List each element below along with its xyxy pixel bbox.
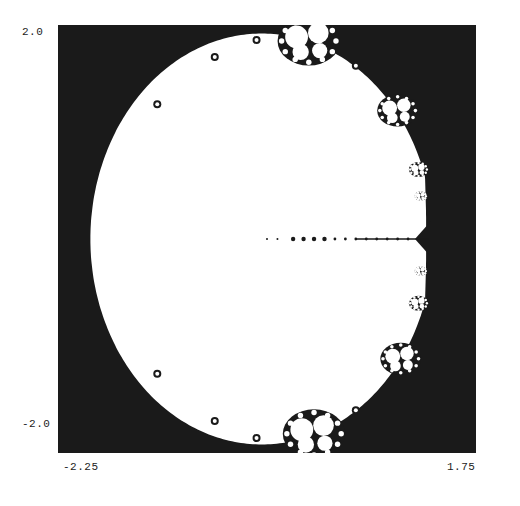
y-axis-max-label: 2.0 (22, 26, 43, 38)
bulb-bud (292, 57, 297, 62)
bulb-bud (405, 121, 409, 125)
lower-right-bulb (380, 343, 421, 375)
bulb-bud (288, 442, 293, 447)
bulb-bud (335, 442, 340, 447)
x-axis-max-label: 1.75 (447, 461, 475, 473)
spike-dot (276, 238, 278, 240)
upper-right-bulb (377, 95, 418, 127)
bulb-bud (408, 345, 412, 349)
spike-dot (291, 237, 295, 241)
spike-dot (322, 237, 326, 241)
edge-bud (352, 62, 360, 70)
bulb-bud (338, 431, 343, 436)
bulb-bud (414, 109, 418, 113)
bulb-bud (333, 38, 338, 43)
y-axis-min-label: -2.0 (22, 418, 50, 430)
spike-dot (312, 237, 316, 241)
bulb-bud (419, 191, 421, 193)
bulb-bud (417, 175, 419, 177)
x-axis-min-label: -2.25 (63, 461, 99, 473)
bulb-bud (405, 97, 409, 101)
bulb-bud (426, 168, 428, 170)
edge-bud-core (213, 419, 217, 423)
bulb-bud (417, 162, 419, 164)
bulb-bud (425, 299, 427, 301)
bulb-bud (413, 308, 415, 310)
bulb-bud (422, 163, 424, 165)
bulb-bud (422, 273, 424, 275)
bulb-bud (288, 420, 293, 425)
bulb-lobe (418, 164, 424, 170)
edge-bud (253, 434, 261, 442)
bulb-bud (330, 28, 335, 33)
bulb-bud (419, 274, 421, 276)
bulb-bud (330, 49, 335, 54)
bulb-bud (279, 38, 284, 43)
bulb-bud (380, 116, 384, 120)
bulb-bud (413, 163, 415, 165)
edge-bud (153, 370, 161, 378)
bulb-bud (399, 371, 403, 375)
edge-bud-core (255, 436, 259, 440)
bulb-bud (409, 168, 411, 170)
bulb-bud (325, 413, 330, 418)
bulb-bud (396, 123, 400, 127)
spike-dot (266, 238, 268, 240)
bulb-bud (410, 305, 412, 307)
bulb-bud (380, 102, 384, 106)
bulb-bud (414, 195, 416, 197)
bulb-bud (422, 266, 424, 268)
bulb-bud (410, 165, 412, 167)
bulb-bud (410, 172, 412, 174)
fractal-plot (58, 25, 476, 453)
bulb-bud (413, 174, 415, 176)
spike-dot (301, 237, 305, 241)
bulb-bud (419, 266, 421, 268)
bulb-bud (384, 350, 388, 354)
bulb-bud (417, 266, 419, 268)
edge-bud-core (255, 38, 259, 42)
bulb-bud (425, 172, 427, 174)
bulb-bud (422, 174, 424, 176)
edge-bud (253, 36, 261, 44)
bulb-lobe (400, 112, 410, 122)
bulb-bud (311, 410, 316, 415)
bulb-bud (417, 273, 419, 275)
bulb-bud (414, 270, 416, 272)
bulb-bud (378, 109, 382, 113)
bulb-bud (387, 97, 391, 101)
bulb-lobe (420, 304, 425, 309)
bulb-lobe (313, 415, 334, 436)
bulb-bud (283, 49, 288, 54)
bulb-bud (422, 191, 424, 193)
edge-bud-core (354, 408, 358, 412)
bulb-bud (425, 270, 427, 272)
edge-bud-core (354, 64, 358, 68)
bulb-bud (424, 193, 426, 195)
bulb-bud (284, 431, 289, 436)
spike-dot (344, 238, 347, 241)
bulb-bud (408, 369, 412, 373)
bulb-bud (381, 357, 385, 361)
bulb-bud (283, 28, 288, 33)
bulb-bud (413, 296, 415, 298)
bulb-bud (425, 195, 427, 197)
bulb-bud (414, 350, 418, 354)
edge-bud-core (155, 372, 159, 376)
bulb-bud (306, 60, 311, 65)
bulb-bud (387, 121, 391, 125)
bulb-lobe (397, 99, 411, 113)
edge-bud (352, 406, 360, 414)
bulb-bud (417, 295, 419, 297)
bulb-bud (415, 193, 417, 195)
bulb-bud (422, 296, 424, 298)
bulb-bud (415, 197, 417, 199)
bulb-bud (422, 199, 424, 201)
bulb-bud (396, 95, 400, 99)
bulb-bud (415, 268, 417, 270)
bulb-bud (409, 302, 411, 304)
bulb-lobe (403, 360, 413, 370)
bulb-bud (335, 420, 340, 425)
edge-bud-core (213, 55, 217, 59)
bulb-bud (425, 165, 427, 167)
